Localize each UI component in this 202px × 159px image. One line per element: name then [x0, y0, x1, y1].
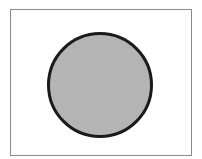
diagram-canvas [0, 0, 202, 159]
filled-circle [49, 34, 152, 137]
